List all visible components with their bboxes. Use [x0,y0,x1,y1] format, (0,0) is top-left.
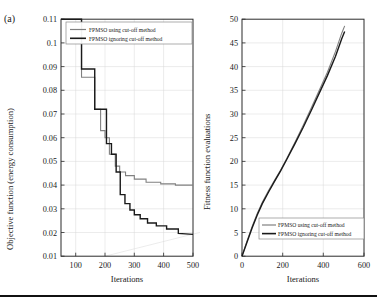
objective-convergence-svg: (a) Objective function (energy consumpti… [0,0,200,292]
y-ticklabel-left-7: 0.08 [43,86,57,95]
legend-left: FPMSO using cut-off method FPMSO ignorin… [66,22,192,44]
y-ticklabel-right-8: 40 [230,63,238,72]
x-axis-title-left: Iterations [111,274,144,284]
y-ticklabel-right-5: 25 [230,134,238,143]
x-ticklabel-right-3: 600 [358,261,370,270]
x-ticklabel-right-0: 0 [240,261,244,270]
y-ticklabel-right-7: 35 [230,86,238,95]
y-ticklabel-right-2: 10 [230,205,238,214]
y-ticklabel-left-9: 0.1 [47,39,57,48]
x-ticklabel-right-1: 200 [277,261,289,270]
y-ticklabel-right-1: 5 [234,229,238,238]
x-ticklabel-left-0: 100 [70,261,82,270]
y-ticklabel-right-4: 20 [230,157,238,166]
y-ticklabel-left-1: 0.02 [43,229,57,238]
figure-container: (a) Objective function (energy consumpti… [0,0,377,307]
chart-panel-objective: (a) Objective function (energy consumpti… [0,0,200,292]
y-ticklabel-right-9: 45 [230,39,238,48]
y-ticklabel-left-5: 0.06 [43,134,57,143]
fitness-evaluations-svg: Fitness function evaluations [196,0,377,292]
y-ticklabel-left-10: 0.11 [43,15,57,24]
y-ticklabel-left-6: 0.07 [43,110,57,119]
y-axis-title-right: Fitness function evaluations [202,113,212,210]
gridlines-horizontal-right [242,43,364,233]
y-ticklabel-right-10: 50 [230,15,238,24]
legend-label-cutoff-left: FPMSO using cut-off method [89,27,156,33]
x-ticklabel-left-2: 300 [128,261,140,270]
y-axis-title-left: Objective function (energy consumption) [5,108,15,250]
legend-label-cutoff-right: FPMSO using cut-off method [278,222,345,228]
legend-label-ignoring-right: FPMSO ignoring cut-off method [278,231,352,237]
chart-panel-fitness: Fitness function evaluations [196,0,377,292]
x-ticklabel-left-3: 400 [157,261,169,270]
y-ticklabel-right-6: 30 [230,110,238,119]
y-ticklabel-left-0: 0.01 [43,252,57,261]
y-ticklabel-right-0: 0 [234,252,238,261]
x-ticks-left: 100 200 300 400 500 [70,253,200,270]
series-line-ignoring-left [61,19,193,234]
y-ticklabel-right-3: 15 [230,181,238,190]
bottom-rule-divider [0,295,377,297]
panel-label-a: (a) [4,13,15,25]
legend-label-ignoring-left: FPMSO ignoring cut-off method [89,36,163,42]
y-ticklabel-left-3: 0.04 [43,181,57,190]
x-ticklabel-left-1: 200 [99,261,111,270]
y-ticklabel-left-4: 0.05 [43,157,57,166]
x-axis-title-right: Iterations [287,274,320,284]
legend-right: FPMSO using cut-off method FPMSO ignorin… [259,218,364,239]
y-ticklabel-left-8: 0.09 [43,63,57,72]
x-ticks-right: 0 200 400 600 [240,253,370,270]
x-ticklabel-right-2: 400 [317,261,329,270]
y-ticklabel-left-2: 0.03 [43,205,57,214]
y-ticks-right: 50 45 40 35 30 25 20 15 10 5 0 [230,15,246,261]
